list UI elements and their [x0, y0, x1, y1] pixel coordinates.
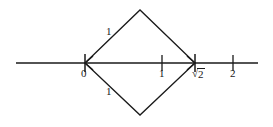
side-label-upper-left: 1: [106, 26, 112, 37]
axis-label-sqrt2: √2: [192, 67, 205, 79]
axis-label-0: 0: [81, 68, 87, 79]
number-line-diagram: [0, 0, 273, 127]
side-label-lower-left: 1: [106, 86, 112, 97]
radicand-value: 2: [197, 68, 205, 80]
axis-label-2: 2: [230, 68, 236, 79]
axis-label-1: 1: [159, 68, 165, 79]
figure-container: 0 1 √2 2 1 1: [0, 0, 273, 127]
